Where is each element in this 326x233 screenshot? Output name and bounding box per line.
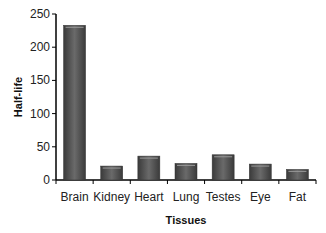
bar-brain [64,25,86,180]
x-tick-label: Brain [61,190,89,204]
x-tick-label: Testes [206,190,241,204]
x-tick-label: Fat [289,190,307,204]
y-tick-label: 150 [30,73,50,87]
bar-chart: 050100150200250BrainKidneyHeartLungTeste… [0,0,326,233]
y-tick-label: 0 [43,173,50,187]
bar-heart [138,156,160,180]
y-tick-label: 100 [30,107,50,121]
x-tick-label: Lung [173,190,200,204]
x-tick-label: Eye [250,190,271,204]
y-tick-label: 250 [30,7,50,21]
bar-testes [212,155,234,180]
x-tick-label: Kidney [93,190,130,204]
x-axis-label: Tissues [166,214,207,226]
y-axis-label: Half-life [12,77,24,117]
x-tick-label: Heart [134,190,164,204]
y-tick-label: 50 [37,140,51,154]
y-tick-label: 200 [30,40,50,54]
